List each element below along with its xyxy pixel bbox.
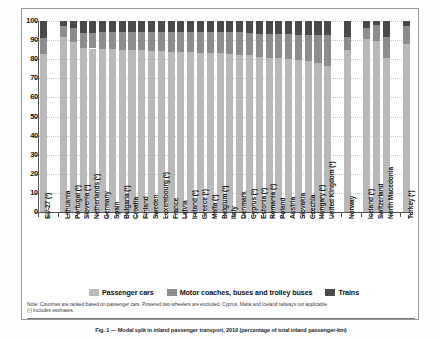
legend-item[interactable]: Motor coaches, buses and trolley buses	[167, 289, 313, 296]
bar-segment-buses	[80, 33, 87, 48]
y-axis-tick-label: 90	[4, 36, 38, 43]
bar-segment-buses	[285, 34, 292, 58]
bar-segment-trains	[70, 21, 77, 28]
legend-swatch-icon	[167, 289, 177, 296]
bar-column[interactable]	[295, 21, 302, 212]
bar-segment-trains	[207, 21, 214, 32]
x-axis-tick-mark	[58, 213, 59, 217]
bar-column[interactable]	[119, 21, 126, 212]
x-axis-tick-mark	[293, 213, 294, 217]
y-axis-tick-label: 20	[4, 170, 38, 177]
figure-container: 0102030405060708090100 EU-27 (¹)Lithuani…	[0, 0, 440, 339]
bar-column[interactable]	[305, 21, 312, 212]
bar-column[interactable]	[60, 21, 67, 212]
x-axis-tick-mark	[400, 213, 401, 217]
x-axis-tick-mark	[116, 213, 117, 217]
bar-segment-passenger-cars	[60, 37, 67, 212]
bar-segment-trains	[324, 21, 331, 35]
bar-segment-trains	[403, 21, 410, 26]
legend-item[interactable]: Passenger cars	[89, 289, 154, 296]
x-axis-tick-mark	[38, 213, 39, 217]
bar-column[interactable]	[344, 21, 351, 212]
bar-segment-trains	[363, 21, 370, 28]
x-axis-tick-mark	[204, 213, 205, 217]
bar-segment-buses	[295, 35, 302, 60]
bar-segment-buses	[324, 35, 331, 66]
bar-segment-passenger-cars	[138, 50, 145, 212]
bar-segment-buses	[305, 35, 312, 61]
bar-segment-buses	[128, 32, 135, 50]
x-axis-tick-mark	[136, 213, 137, 217]
legend-item[interactable]: Trains	[325, 289, 359, 296]
y-axis-tick-label: 0	[4, 208, 38, 215]
bar-segment-trains	[314, 21, 321, 35]
y-axis-tick-label: 60	[4, 94, 38, 101]
bar-segment-trains	[89, 21, 96, 33]
bar-segment-buses	[158, 32, 165, 51]
bar-segment-passenger-cars	[363, 39, 370, 212]
bar-segment-trains	[128, 21, 135, 32]
bar-column[interactable]	[109, 21, 116, 212]
bar-column[interactable]	[217, 21, 224, 212]
bar-segment-trains	[40, 21, 47, 38]
bar-segment-buses	[187, 32, 194, 52]
bar-column[interactable]	[226, 21, 233, 212]
bar-column[interactable]	[187, 21, 194, 212]
x-axis-tick-mark	[146, 213, 147, 217]
x-axis-tick-mark	[234, 213, 235, 217]
bar-segment-buses	[275, 34, 282, 58]
bar-segment-trains	[138, 21, 145, 32]
y-axis-tick-label: 40	[4, 132, 38, 139]
bar-column[interactable]	[138, 21, 145, 212]
bar-segment-buses	[109, 32, 116, 49]
bar-column[interactable]	[314, 21, 321, 212]
legend-swatch-icon	[325, 289, 335, 296]
bar-column[interactable]	[40, 21, 47, 212]
legend-swatch-icon	[89, 289, 99, 296]
bar-segment-buses	[177, 32, 184, 52]
bar-column[interactable]	[236, 21, 243, 212]
x-axis-tick-mark	[351, 213, 352, 217]
notes-divider	[27, 318, 415, 319]
bar-segment-buses	[40, 38, 47, 54]
bar-column[interactable]	[256, 21, 263, 212]
bar-segment-trains	[344, 21, 351, 37]
x-axis-tick-mark	[410, 213, 411, 217]
bar-segment-buses	[197, 32, 204, 53]
bar-segment-buses	[217, 32, 224, 53]
x-axis-tick-mark	[283, 213, 284, 217]
x-axis-tick-mark	[371, 213, 372, 217]
bar-segment-passenger-cars	[285, 59, 292, 212]
bar-segment-buses	[266, 34, 273, 57]
bar-column[interactable]	[128, 21, 135, 212]
bar-segment-buses	[344, 37, 351, 50]
bar-column[interactable]	[148, 21, 155, 212]
x-axis-tick-mark	[77, 213, 78, 217]
x-axis-label: Luxembourg (¹)	[163, 172, 170, 219]
bar-column[interactable]	[177, 21, 184, 212]
bar-segment-passenger-cars	[295, 60, 302, 212]
x-axis-tick-mark	[214, 213, 215, 217]
bar-segment-buses	[363, 28, 370, 39]
bar-segment-trains	[119, 21, 126, 32]
bar-column[interactable]	[403, 21, 410, 212]
bar-column[interactable]	[70, 21, 77, 212]
bar-column[interactable]	[197, 21, 204, 212]
bar-column[interactable]	[363, 21, 370, 212]
bar-segment-trains	[295, 21, 302, 35]
bar-segment-trains	[168, 21, 175, 32]
note-line-2: (¹) Includes estimates.	[27, 308, 415, 314]
x-axis-tick-mark	[67, 213, 68, 217]
bar-segment-passenger-cars	[40, 54, 47, 212]
bar-segment-trains	[109, 21, 116, 32]
legend-label: Trains	[338, 289, 359, 296]
bar-column[interactable]	[246, 21, 253, 212]
bar-column[interactable]	[285, 21, 292, 212]
figure-notes: Note: Countries are ranked based on pass…	[27, 302, 415, 314]
bar-column[interactable]	[207, 21, 214, 212]
bar-segment-trains	[373, 21, 380, 25]
bar-segment-trains	[187, 21, 194, 32]
y-axis-tick-label: 10	[4, 189, 38, 196]
y-axis: 0102030405060708090100	[0, 21, 38, 212]
bar-column[interactable]	[80, 21, 87, 212]
